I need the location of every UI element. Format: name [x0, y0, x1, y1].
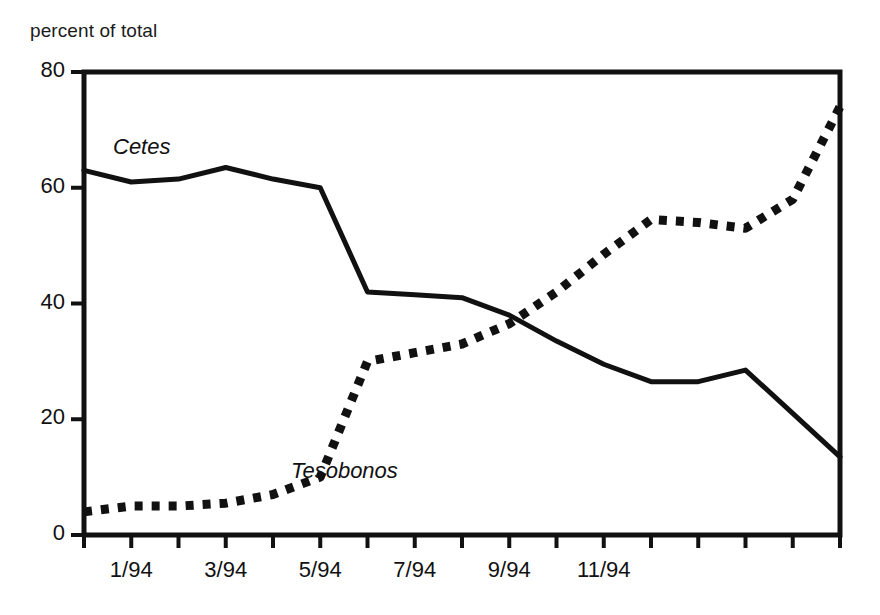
series-line-tesobonos — [84, 107, 840, 512]
x-tick-label: 11/94 — [577, 557, 630, 583]
series-label-cetes: Cetes — [113, 134, 170, 160]
x-tick-label: 5/94 — [299, 557, 342, 583]
x-tick-label: 7/94 — [393, 557, 436, 583]
x-tick-label: 3/94 — [204, 557, 247, 583]
series-line-cetes — [84, 167, 840, 456]
axis-ticks — [71, 72, 840, 548]
chart-figure: percent of total 020406080 1/943/945/947… — [0, 0, 880, 615]
y-tick-label: 20 — [13, 404, 65, 430]
y-tick-label: 0 — [13, 520, 65, 546]
y-tick-label: 80 — [13, 57, 65, 83]
x-tick-label: 1/94 — [110, 557, 153, 583]
y-axis-title: percent of total — [30, 20, 157, 42]
y-tick-label: 60 — [13, 173, 65, 199]
plot-border — [84, 72, 840, 535]
x-tick-label: 9/94 — [488, 557, 531, 583]
data-series — [84, 107, 840, 512]
line-chart-plot — [0, 0, 880, 615]
plot-frame — [84, 72, 840, 535]
y-tick-label: 40 — [13, 289, 65, 315]
series-label-tesobonos: Tesobonos — [291, 458, 398, 484]
